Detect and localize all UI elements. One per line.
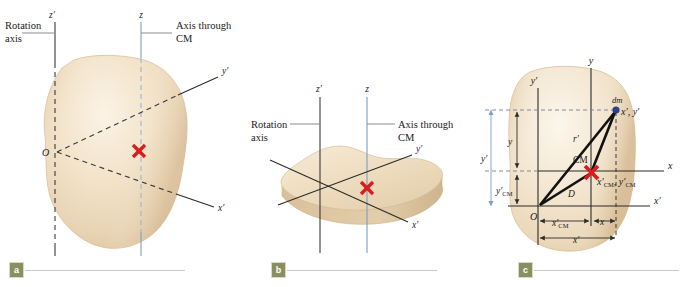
origin-label: O [42, 147, 49, 158]
panel-a-diagram: z′ z Rotation axis Axis through CM y′ x′ [0, 0, 240, 287]
parallel-axis-theorem-figure: z′ z Rotation axis Axis through CM y′ x′ [0, 0, 683, 287]
y-prime-axis-label: y′ [221, 66, 229, 76]
vector-r-prime-label: r′ [573, 134, 580, 144]
y-prime-axis-label: y′ [415, 144, 423, 154]
cm-label: CM [573, 155, 588, 165]
panel-a: z′ z Rotation axis Axis through CM y′ x′ [0, 0, 240, 287]
vector-D-label: D [567, 189, 575, 199]
z-axis-label: z [364, 84, 369, 94]
panel-c-diagram: y′ x′ y x r′ D d [460, 0, 683, 287]
cm-axis-callout-line1: Axis through [176, 20, 232, 31]
caption-strip-b: b [272, 263, 437, 277]
panel-b: z′ z Rotation axis Axis through CM y′ x′ [240, 0, 470, 287]
mass-element-dot [612, 106, 619, 113]
caption-rule-a [25, 270, 185, 271]
caption-rule-c [534, 270, 679, 271]
rotation-axis-callout-line2: axis [251, 132, 268, 143]
z-prime-axis-label: z′ [315, 84, 323, 94]
panel-letter-b: b [272, 263, 285, 277]
dimension-y-prime: y′ [480, 110, 494, 206]
y-axis-label: y [588, 55, 594, 66]
caption-strip-c: c [519, 263, 679, 277]
panel-letter-a: a [10, 263, 23, 277]
dimension-y-label: y [507, 137, 513, 147]
mass-element-coords-label: x′, y′ [620, 106, 640, 117]
origin-label: O [530, 211, 537, 222]
x-prime-axis-label: x′ [217, 203, 225, 213]
caption-strip-a: a [10, 263, 185, 277]
rotation-axis-callout-line1: Rotation [251, 119, 288, 130]
x-axis-label: x [667, 160, 673, 171]
dimension-x-label: x [599, 217, 605, 227]
x-prime-axis-label: x′ [653, 195, 661, 206]
y-prime-axis-label: y′ [530, 75, 538, 86]
x-prime-axis-outside [176, 194, 214, 207]
cm-axis-callout-line2: CM [398, 132, 415, 143]
rotation-axis-callout-line1: Rotation [5, 20, 42, 31]
x-prime-axis-label: x′ [411, 220, 419, 230]
dimension-y-prime-label: y′ [480, 154, 488, 164]
panel-b-diagram: z′ z Rotation axis Axis through CM y′ x′ [240, 0, 470, 287]
cm-axis-callout-line2: CM [176, 33, 193, 44]
rotation-axis-callout-line2: axis [5, 33, 22, 44]
dimension-x-prime-label: x′ [572, 235, 580, 245]
panel-c: y′ x′ y x r′ D d [460, 0, 683, 287]
y-prime-axis-outside [178, 77, 218, 95]
cm-axis-callout-line1: Axis through [398, 119, 454, 130]
z-axis-label: z [138, 10, 143, 20]
caption-rule-b [287, 270, 437, 271]
panel-letter-c: c [519, 263, 532, 277]
z-prime-axis-label: z′ [48, 10, 56, 20]
mass-element-label: dm [612, 95, 622, 105]
